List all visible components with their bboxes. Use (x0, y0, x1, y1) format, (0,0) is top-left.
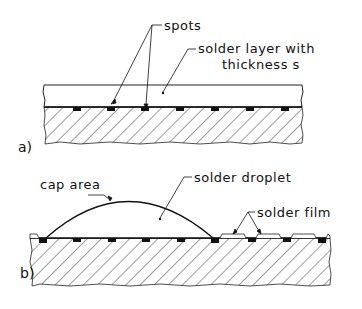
panel-a-label: a) (18, 139, 32, 155)
substrate-a (44, 107, 303, 144)
solder-layer-label-line1: solder layer with (198, 41, 315, 56)
spots-label: spots (164, 18, 201, 33)
solder-film-leader (235, 212, 255, 233)
solder-layer (43, 85, 303, 107)
panel-b-label: b) (20, 265, 34, 281)
solder-film-label: solder film (257, 205, 331, 220)
solder-diagram: spots solder layer with thickness s a) (0, 0, 362, 309)
substrate-b (30, 238, 331, 286)
cap-area-label: cap area (40, 177, 101, 192)
solder-layer-label-line2: thickness s (222, 57, 300, 72)
panel-b: cap area solder droplet solder film b) (20, 170, 331, 286)
solder-droplet-label: solder droplet (194, 170, 291, 185)
panel-a: spots solder layer with thickness s a) (18, 18, 315, 155)
solder-film (220, 234, 330, 238)
solder-droplet (46, 202, 213, 239)
cap-area-leader (88, 195, 110, 200)
